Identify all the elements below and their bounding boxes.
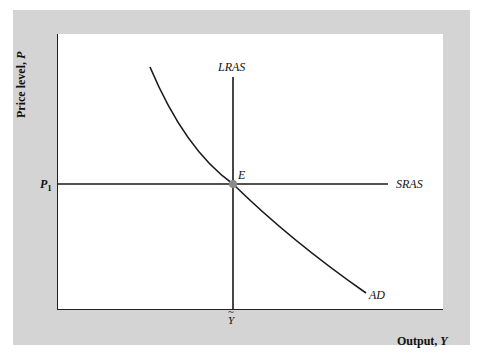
equilibrium-label: E xyxy=(238,168,245,183)
x-axis-label: Output, Y xyxy=(397,334,448,349)
lras-label: LRAS xyxy=(218,60,245,75)
ad-curve xyxy=(150,67,366,293)
x-axis-label-text: Output, xyxy=(397,334,440,348)
y-tick-subscript: 1 xyxy=(47,183,52,193)
y-tick-p1: P1 xyxy=(40,177,52,193)
tilde-accent: ~ xyxy=(228,305,234,317)
ad-label: AD xyxy=(369,288,385,303)
y-axis-label-variable: P xyxy=(14,52,28,59)
x-axis-label-variable: Y xyxy=(440,334,447,348)
sras-label: SRAS xyxy=(396,177,423,192)
y-axis-label-text: Price level, xyxy=(14,59,28,118)
x-tick-y-tilde: ~Y xyxy=(228,314,234,326)
equilibrium-point xyxy=(229,180,237,188)
y-axis-label: Price level, P xyxy=(14,52,29,118)
